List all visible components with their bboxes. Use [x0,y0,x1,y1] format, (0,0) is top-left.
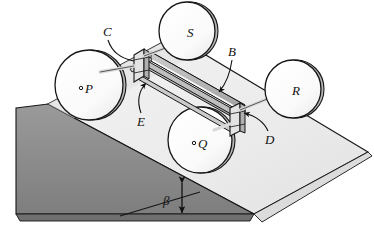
incline-cart-diagram: β P Q [0,0,374,242]
figure-root: β P Q [0,0,374,242]
label-c: C [103,24,112,39]
incline-base-sliver [16,214,254,221]
wheel-p-group: P [55,50,126,120]
label-p: P [84,81,93,96]
bracket-d-post [230,103,240,136]
label-e: E [136,114,145,129]
label-q: Q [198,136,208,151]
wheel-q-group: Q [168,107,235,173]
label-d: D [264,132,275,147]
wheel-s-group: S [159,2,218,60]
wheel-r-group: R [265,60,324,118]
label-s: S [187,25,194,40]
label-r: R [291,83,300,98]
label-beta: β [162,193,170,208]
label-b: B [228,44,236,59]
